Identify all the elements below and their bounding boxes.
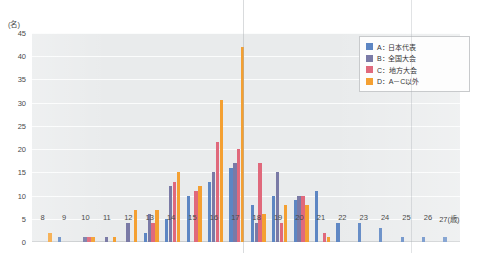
x-tick-8: 8 (31, 213, 55, 222)
bar-C-age-16 (216, 142, 219, 242)
bar-A-age-16 (208, 182, 211, 242)
bar-A-age-9 (58, 237, 61, 242)
x-tick-24: 24 (373, 213, 397, 222)
bar-group-age-22 (336, 33, 352, 242)
bar-C-age-19 (280, 223, 283, 242)
bar-C-age-10 (87, 237, 90, 242)
y-tick-20: 20 (4, 145, 26, 154)
bar-D-age-8 (48, 233, 51, 242)
bar-B-age-17 (233, 163, 236, 242)
gridline-10 (32, 196, 460, 197)
gridline-45 (32, 33, 460, 34)
bar-group-age-16 (208, 33, 224, 242)
legend-item-4[interactable]: D：A－C以外 (366, 76, 464, 88)
bar-C-age-17 (237, 149, 240, 242)
x-tick-10: 10 (74, 213, 98, 222)
y-tick-15: 15 (4, 168, 26, 177)
bar-A-age-18 (251, 205, 254, 242)
bar-B-age-11 (105, 237, 108, 242)
bar-D-age-10 (91, 237, 94, 242)
bar-D-age-21 (327, 237, 330, 242)
bar-B-age-10 (83, 237, 86, 242)
x-tick-19: 19 (266, 213, 290, 222)
bar-group-age-15 (187, 33, 203, 242)
bar-group-age-8 (37, 33, 53, 242)
bar-B-age-19 (276, 172, 279, 242)
bar-B-age-18 (255, 223, 258, 242)
legend-swatch-icon-4 (366, 78, 373, 85)
bar-B-age-12 (126, 223, 129, 242)
legend-swatch-icon-2 (366, 55, 373, 62)
y-tick-40: 40 (4, 52, 26, 61)
scan-artifact-line (243, 0, 244, 253)
y-tick-5: 5 (4, 214, 26, 223)
bar-group-age-9 (58, 33, 74, 242)
legend-label-4: D：A－C以外 (377, 76, 419, 86)
x-tick-13: 13 (138, 213, 162, 222)
y-tick-10: 10 (4, 191, 26, 200)
bar-group-age-20 (294, 33, 310, 242)
x-tick-16: 16 (202, 213, 226, 222)
legend-item-2[interactable]: B：全国大会 (366, 53, 464, 65)
bar-B-age-16 (212, 172, 215, 242)
bar-chart-figure: (名) 051015202530354045 89101112131415161… (0, 0, 482, 267)
bar-A-age-14 (165, 219, 168, 242)
scan-artifact-line-secondary (411, 0, 412, 253)
x-tick-21: 21 (309, 213, 333, 222)
bar-D-age-11 (113, 237, 116, 242)
bar-D-age-20 (305, 205, 308, 242)
gridline-30 (32, 103, 460, 104)
x-tick-27: 27(歳) (429, 213, 469, 224)
x-tick-25: 25 (395, 213, 419, 222)
bar-C-age-13 (151, 223, 154, 242)
bar-group-age-21 (315, 33, 331, 242)
gridline-20 (32, 149, 460, 150)
bar-group-age-13 (144, 33, 160, 242)
y-tick-30: 30 (4, 98, 26, 107)
gridline-25 (32, 126, 460, 127)
bar-A-age-26 (422, 237, 425, 242)
bar-group-age-19 (272, 33, 288, 242)
bar-group-age-11 (101, 33, 117, 242)
bar-A-age-17 (229, 168, 232, 242)
legend-swatch-icon-1 (366, 43, 373, 50)
bar-group-age-10 (80, 33, 96, 242)
bar-D-age-19 (284, 205, 287, 242)
bar-A-age-25 (401, 237, 404, 242)
bar-C-age-21 (323, 233, 326, 242)
y-tick-35: 35 (4, 75, 26, 84)
bar-A-age-23 (358, 223, 361, 242)
legend-item-1[interactable]: A：日本代表 (366, 41, 464, 53)
x-tick-11: 11 (95, 213, 119, 222)
gridline-15 (32, 172, 460, 173)
bar-group-age-18 (251, 33, 267, 242)
legend-swatch-icon-3 (366, 66, 373, 73)
bar-group-age-12 (122, 33, 138, 242)
y-tick-0: 0 (4, 238, 26, 247)
bar-group-age-14 (165, 33, 181, 242)
x-tick-9: 9 (52, 213, 76, 222)
x-tick-18: 18 (245, 213, 269, 222)
bar-D-age-14 (177, 172, 180, 242)
x-tick-20: 20 (288, 213, 312, 222)
x-tick-14: 14 (159, 213, 183, 222)
x-tick-15: 15 (181, 213, 205, 222)
y-tick-25: 25 (4, 121, 26, 130)
y-tick-45: 45 (4, 29, 26, 38)
bar-A-age-13 (144, 233, 147, 242)
bar-A-age-24 (379, 228, 382, 242)
x-tick-23: 23 (352, 213, 376, 222)
y-axis-unit-label: (名) (8, 18, 20, 29)
bar-C-age-14 (173, 182, 176, 242)
chart-legend: A：日本代表B：全国大会C：地方大会D：A－C以外 (359, 36, 470, 92)
x-tick-22: 22 (330, 213, 354, 222)
legend-item-3[interactable]: C：地方大会 (366, 64, 464, 76)
bar-A-age-27 (443, 237, 446, 242)
bar-C-age-18 (258, 163, 261, 242)
x-tick-12: 12 (116, 213, 140, 222)
x-axis-baseline (32, 241, 460, 242)
bar-A-age-22 (336, 223, 339, 242)
